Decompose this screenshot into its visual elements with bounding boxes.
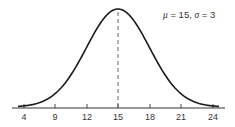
x-axis-ticks: 491215182124	[21, 104, 218, 122]
x-tick-label: 18	[145, 112, 155, 122]
x-tick-label: 15	[113, 112, 123, 122]
sigma-value: = 3	[199, 9, 215, 20]
normal-curve	[18, 9, 219, 106]
x-tick-label: 21	[176, 112, 186, 122]
x-tick-label: 12	[82, 112, 92, 122]
parameters-annotation: μ = 15, σ = 3	[162, 9, 215, 20]
x-tick-label: 4	[21, 112, 26, 122]
x-tick-label: 24	[208, 112, 218, 122]
mu-value: = 15,	[168, 9, 195, 20]
normal-distribution-chart: 491215182124 μ = 15, σ = 3	[0, 0, 235, 127]
x-tick-label: 9	[52, 112, 57, 122]
